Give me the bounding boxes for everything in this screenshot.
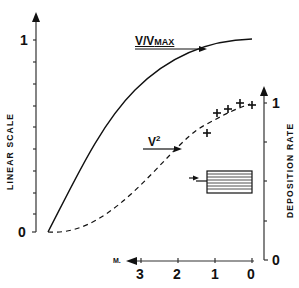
v2-label-sup: 2: [156, 134, 160, 143]
marker-cross-icon: [203, 129, 211, 137]
right-tick-1: 1: [272, 96, 280, 110]
right-tick-0: 0: [272, 253, 280, 267]
marker-cross-icon: [213, 109, 221, 117]
left-tick-0: 0: [18, 225, 26, 239]
right-axis-arrow-icon: [260, 86, 268, 96]
data-markers: [203, 99, 256, 137]
left-axis-arrow-icon: [32, 12, 40, 22]
hatched-box: [189, 171, 252, 193]
marker-cross-icon: [236, 99, 244, 107]
curve-v-squared: [48, 104, 250, 232]
bottom-tick-3: 3: [136, 267, 144, 281]
arrow-right-icon: [193, 176, 199, 181]
vmax-label-main: V/V: [135, 34, 154, 48]
bottom-tick-2: 2: [173, 267, 181, 281]
v2-label-main: V: [148, 135, 156, 149]
bottom-tick-1: 1: [211, 267, 219, 281]
right-axis: [264, 96, 268, 260]
marker-cross-icon: [248, 101, 256, 109]
bottom-tick-0: 0: [247, 267, 255, 281]
right-axis-title: DEPOSITION RATE: [286, 123, 295, 218]
bottom-axis-arrow-icon: [126, 257, 137, 265]
left-axis-title: LINEAR SCALE: [6, 113, 15, 190]
bottom-axis-title: M.: [113, 257, 121, 264]
left-axis: [32, 22, 36, 232]
v2-label: V2: [148, 135, 160, 148]
vmax-label-sub: MAX: [154, 37, 174, 47]
bottom-axis: [136, 258, 254, 263]
arrow-right-icon: [174, 146, 182, 152]
marker-cross-icon: [224, 105, 232, 113]
vmax-label: V/VMAX: [135, 35, 174, 47]
left-tick-1: 1: [20, 33, 28, 47]
